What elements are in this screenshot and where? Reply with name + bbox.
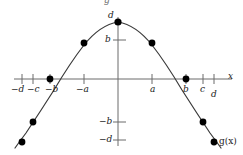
graph-canvas (0, 0, 243, 155)
x-label-pos-b: b (183, 85, 189, 94)
x-label-pos-a: a (150, 85, 155, 94)
y-label-pos-b: b (105, 35, 111, 44)
point-zero-d (114, 18, 121, 25)
x-label-pos-d: d (211, 90, 217, 99)
point-neg-b-zero (47, 76, 54, 83)
point-neg-a-b (81, 40, 88, 47)
x-label-pos-c: c (200, 85, 205, 94)
y-label-pos-d: d (108, 11, 114, 20)
y-label-neg-d: −d (99, 135, 112, 144)
parabola-figure: g (0, 0, 243, 155)
function-label: g(x) (219, 137, 237, 146)
point-a-b (149, 40, 156, 47)
x-label-neg-d: −d (11, 85, 24, 94)
point-neg-d-neg-d (19, 139, 26, 146)
x-axis-label: x (228, 72, 233, 81)
y-axis-ticks (113, 40, 126, 140)
point-b-zero (183, 76, 190, 83)
point-neg-c-neg-b (30, 119, 37, 126)
y-label-neg-b: −b (99, 117, 112, 126)
x-label-neg-b: −b (45, 85, 58, 94)
x-label-neg-a: −a (76, 85, 89, 94)
x-label-neg-c: −c (27, 85, 40, 94)
point-d-neg-d (211, 139, 218, 146)
point-c-neg-b (200, 119, 207, 126)
